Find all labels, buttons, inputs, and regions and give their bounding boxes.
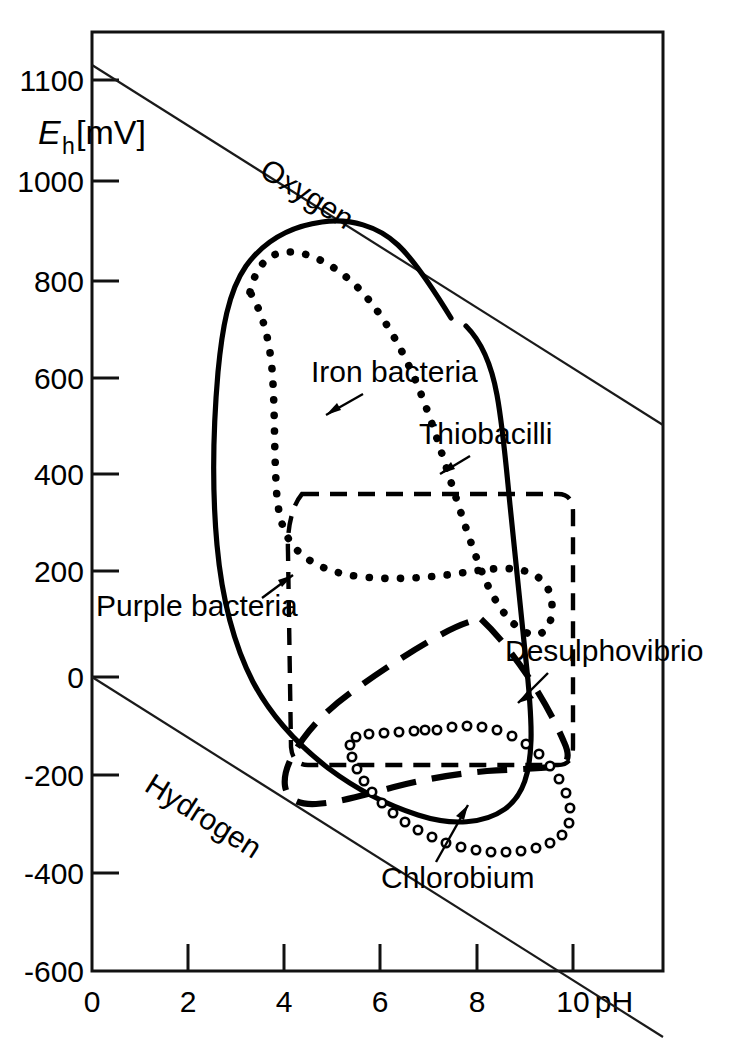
- annotation-thiobacilli: Thiobacilli: [419, 417, 552, 474]
- y-ticklabel-minus200: -200: [24, 759, 84, 792]
- y-axis-title-subscript: h: [62, 133, 75, 159]
- curve-chlorobium: [346, 722, 574, 856]
- thiobacilli-label: Thiobacilli: [419, 417, 552, 450]
- x-axis-unit-label: pH: [595, 985, 633, 1018]
- y-ticklabel-1000: 1000: [17, 165, 84, 198]
- y-axis-title-unit: [mV]: [76, 113, 146, 151]
- iron-bacteria-label: Iron bacteria: [311, 355, 478, 388]
- chlorobium-markers: [346, 722, 574, 856]
- x-ticklabel-10: 10: [556, 985, 589, 1018]
- hydrogen-stability-line: Hydrogen: [92, 677, 663, 1037]
- x-ticklabel-2: 2: [180, 985, 197, 1018]
- y-ticklabel-800: 800: [34, 265, 84, 298]
- y-ticklabel-1100: 1100: [19, 64, 84, 97]
- annotation-purple-bacteria: Purple bacteria: [96, 575, 298, 622]
- annotation-desulphovibrio: Desulphovibrio: [505, 634, 703, 703]
- iron-bacteria-arrowhead: [326, 403, 341, 415]
- x-ticklabel-0: 0: [84, 985, 101, 1018]
- plot-canvas: 1100 1000 800 600 400 200 0 -200 -400 -6…: [0, 0, 737, 1039]
- chlorobium-label: Chlorobium: [381, 861, 534, 894]
- y-axis-title-symbol: E: [38, 113, 61, 151]
- hydrogen-line: [92, 677, 663, 1037]
- plot-frame: [92, 32, 663, 971]
- chlorobium-arrowhead: [456, 805, 468, 820]
- y-ticklabel-minus600: -600: [24, 955, 84, 988]
- y-ticklabel-600: 600: [34, 362, 84, 395]
- annotation-iron-bacteria: Iron bacteria: [311, 355, 478, 415]
- y-ticklabel-200: 200: [34, 555, 84, 588]
- eh-ph-diagram-figure: 1100 1000 800 600 400 200 0 -200 -400 -6…: [0, 0, 737, 1039]
- y-axis-tick-labels: 1100 1000 800 600 400 200 0 -200 -400 -6…: [17, 64, 84, 988]
- y-ticklabel-minus400: -400: [24, 857, 84, 890]
- x-ticklabel-8: 8: [469, 985, 486, 1018]
- x-axis-ticks: [188, 944, 573, 971]
- y-axis-ticks: [92, 80, 119, 873]
- y-ticklabel-400: 400: [34, 458, 84, 491]
- hydrogen-line-label: Hydrogen: [140, 767, 268, 864]
- thiobacilli-arrowhead: [440, 462, 455, 474]
- x-ticklabel-4: 4: [276, 985, 293, 1018]
- y-ticklabel-0: 0: [67, 661, 84, 694]
- x-axis-tick-labels: 0 2 4 6 8 10 pH: [84, 985, 634, 1018]
- x-ticklabel-6: 6: [372, 985, 389, 1018]
- desulphovibrio-label: Desulphovibrio: [505, 634, 703, 667]
